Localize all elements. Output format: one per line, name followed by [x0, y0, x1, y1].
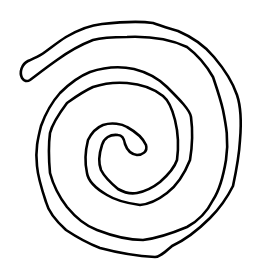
- spiral-icon: [0, 0, 255, 278]
- spiral-drawing: [0, 0, 255, 278]
- spiral-outline: [21, 22, 241, 257]
